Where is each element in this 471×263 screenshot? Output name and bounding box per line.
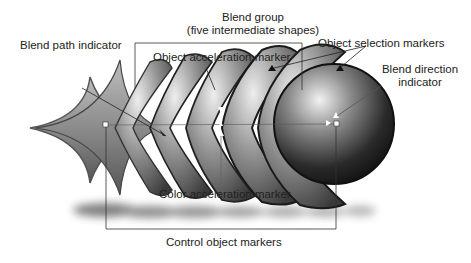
color-acceleration-marker-label: Color acceleration marker xyxy=(159,188,291,201)
object-acceleration-marker-label: Object acceleration marker xyxy=(153,51,290,64)
blend-group-label: Blend group (five intermediate shapes) xyxy=(178,11,328,37)
blend-path-indicator-label: Blend path indicator xyxy=(20,39,122,52)
blend-diagram: Blend group (five intermediate shapes) B… xyxy=(0,0,471,263)
blend-direction-label-line1: Blend direction xyxy=(375,63,465,76)
blend-group-label-line1: Blend group xyxy=(178,11,328,24)
start-control-marker[interactable] xyxy=(103,122,108,127)
end-control-marker[interactable] xyxy=(334,121,339,126)
blend-direction-indicator-label: Blend direction indicator xyxy=(375,63,465,89)
blend-group-label-line2: (five intermediate shapes) xyxy=(178,24,328,37)
blend-direction-label-line2: indicator xyxy=(375,76,465,89)
object-selection-markers-label: Object selection markers xyxy=(318,37,445,50)
control-object-markers-label: Control object markers xyxy=(166,236,282,249)
